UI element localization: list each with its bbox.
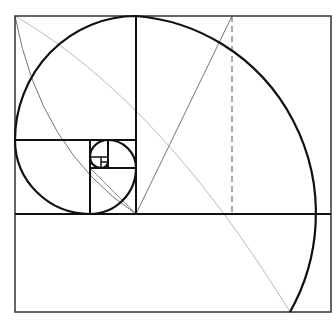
background xyxy=(0,0,336,325)
golden-spiral-diagram xyxy=(0,0,336,325)
